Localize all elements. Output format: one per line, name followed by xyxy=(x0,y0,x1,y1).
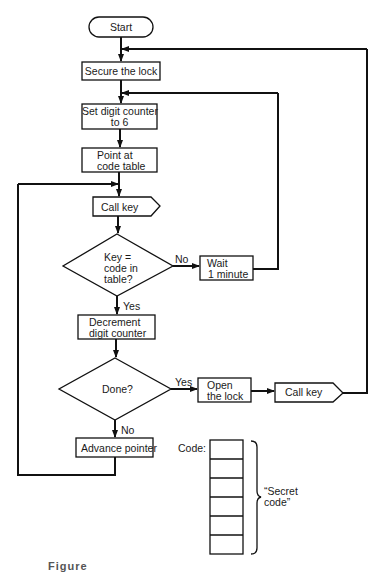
call-key-2-label: Call key xyxy=(285,386,322,398)
figure-caption: Figure xyxy=(48,560,88,572)
decision-2-no-label: No xyxy=(121,424,134,436)
start-label: Start xyxy=(89,21,153,33)
wait-label-2: 1 minute xyxy=(208,268,248,280)
decision-2-label: Done? xyxy=(102,383,133,395)
code-table-label: Code: xyxy=(178,442,206,454)
open-lock-label-2: the lock xyxy=(207,390,243,402)
advance-pointer-label: Advance pointer xyxy=(81,442,157,454)
decision-1-label-3: table? xyxy=(104,273,133,285)
decision-2-yes-label: Yes xyxy=(175,376,192,388)
decision-1-yes-label: Yes xyxy=(123,300,140,312)
point-label-2: code table xyxy=(97,160,145,172)
call-key-1-label: Call key xyxy=(101,201,138,213)
secure-label: Secure the lock xyxy=(82,65,160,77)
set-counter-label-2: to 6 xyxy=(82,116,157,128)
secret-code-label-2: code” xyxy=(264,496,290,508)
decrement-label-2: digit counter xyxy=(89,327,146,339)
decision-1-no-label: No xyxy=(175,253,188,265)
secret-code-brace xyxy=(251,441,261,554)
